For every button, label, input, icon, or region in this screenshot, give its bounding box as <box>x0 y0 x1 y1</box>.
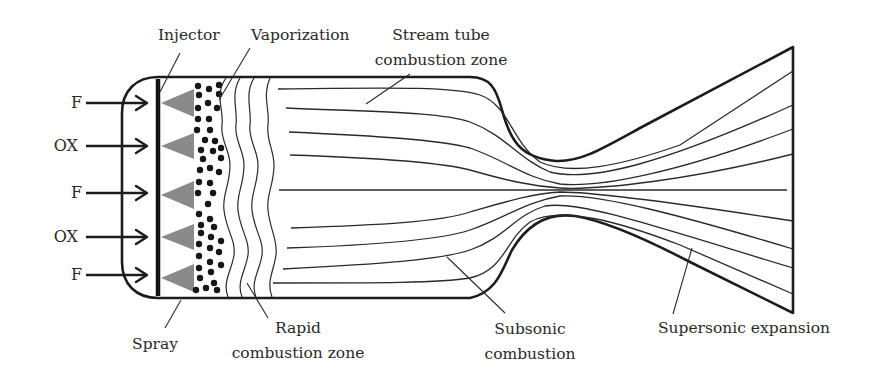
vaporization-leader <box>219 48 250 100</box>
inlet-arrow-4: OX <box>54 227 147 246</box>
spray-cone <box>161 89 194 117</box>
subsonic-leader <box>447 257 505 313</box>
stream-tube-label-line2: combustion zone <box>375 51 508 69</box>
spray-cones <box>161 89 194 292</box>
flame-fronts <box>220 78 276 297</box>
spray-label: Spray <box>132 335 178 353</box>
rapid-leader <box>247 283 268 318</box>
injector-leader <box>160 53 180 92</box>
combustion-chamber-diagram: F OX F OX F <box>0 0 881 381</box>
stream-tube-label-line1: Stream tube <box>392 26 490 44</box>
rapid-label-line2: combustion zone <box>232 344 365 362</box>
stream-tube-leader <box>366 74 410 104</box>
spray-cone <box>161 224 194 250</box>
inlet-label: OX <box>54 227 79 246</box>
injector-label: Injector <box>158 26 220 44</box>
inlet-label: F <box>71 93 82 112</box>
spray-cone <box>161 133 194 159</box>
subsonic-label-line2: combustion <box>484 345 575 363</box>
subsonic-label-line1: Subsonic <box>494 320 565 338</box>
spray-leader <box>165 300 181 328</box>
droplets <box>193 82 224 293</box>
inlet-arrow-3: F <box>71 183 147 202</box>
inlet-arrow-2: OX <box>54 136 147 155</box>
spray-cone <box>161 264 194 292</box>
inlet-arrow-1: F <box>71 93 147 112</box>
inlet-arrow-5: F <box>71 265 147 284</box>
streamlines <box>273 71 793 294</box>
spray-cone <box>161 181 194 209</box>
chamber-nozzle-wall <box>122 47 793 313</box>
rapid-label-line1: Rapid <box>275 319 321 337</box>
supersonic-label: Supersonic expansion <box>658 319 830 337</box>
inlet-label: F <box>71 183 82 202</box>
inlet-label: F <box>71 265 82 284</box>
inlet-arrows: F OX F OX F <box>54 93 147 284</box>
inlet-label: OX <box>54 136 79 155</box>
vaporization-label: Vaporization <box>250 26 350 44</box>
